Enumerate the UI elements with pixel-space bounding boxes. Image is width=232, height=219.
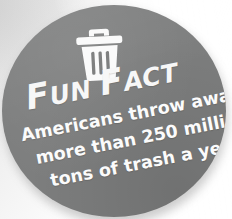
- badge-circle: FUN FACT Americans throw away more than …: [2, 5, 226, 217]
- fun-fact-badge-scene: FUN FACT Americans throw away more than …: [0, 0, 232, 219]
- heading-word-two-rest: ACT: [121, 58, 181, 97]
- heading-word-one-initial: F: [22, 74, 53, 118]
- heading-word-one-rest: UN: [47, 75, 94, 112]
